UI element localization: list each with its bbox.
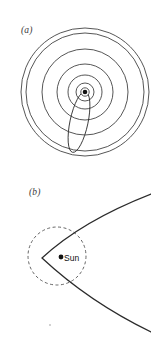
figure-root: (a) (b) Sun: [0, 0, 151, 344]
panel-a-label: (a): [21, 26, 33, 36]
sun-dot: [59, 255, 64, 260]
sun-dot: [83, 90, 88, 95]
comet-orbit-ellipse: [64, 90, 94, 154]
sun-marker-group: [81, 88, 89, 96]
panel-b-label: (b): [29, 188, 41, 198]
panel-b: (b) Sun: [0, 172, 151, 344]
sun-label: Sun: [64, 254, 79, 263]
comet-parabolic-trajectory: [42, 194, 151, 332]
speck-mark: [49, 324, 51, 326]
panel-a: (a): [0, 0, 151, 172]
comet-orbit-group: [64, 90, 94, 154]
